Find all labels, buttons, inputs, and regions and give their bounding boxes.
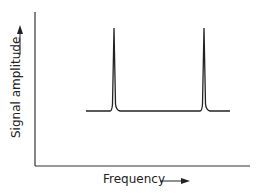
spectrum-line [86,28,230,111]
axes [35,12,250,166]
spectrum-chart [0,0,263,193]
y-axis-label: Signal amplitude [9,37,23,138]
x-axis-label: Frequency [103,172,165,186]
